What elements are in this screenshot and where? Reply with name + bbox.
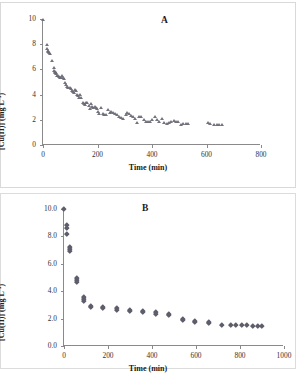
data-point bbox=[220, 123, 224, 126]
data-point bbox=[121, 117, 125, 120]
y-tick bbox=[61, 236, 64, 237]
y-tick-label: 6 bbox=[32, 66, 36, 73]
plot-area-b: 0.02.04.06.08.010.002004006008001000 bbox=[63, 209, 283, 346]
data-point bbox=[50, 59, 54, 62]
data-point bbox=[160, 117, 164, 120]
y-tick-label: 2.0 bbox=[48, 315, 57, 322]
x-tick-label: 600 bbox=[201, 151, 212, 158]
y-tick-label: 10.0 bbox=[44, 205, 57, 212]
x-tick bbox=[196, 346, 197, 349]
data-point bbox=[75, 280, 80, 285]
data-point bbox=[233, 323, 238, 328]
data-point bbox=[78, 93, 82, 96]
y-tick bbox=[40, 69, 43, 70]
data-point bbox=[135, 121, 139, 124]
data-point bbox=[41, 18, 45, 21]
x-axis-title-a: Time (min) bbox=[129, 163, 167, 172]
x-tick bbox=[207, 145, 208, 148]
data-point bbox=[100, 306, 105, 311]
y-tick-label: 2 bbox=[32, 116, 36, 123]
data-point bbox=[140, 310, 145, 315]
data-point bbox=[219, 322, 224, 327]
x-tick bbox=[64, 346, 65, 349]
y-tick bbox=[61, 264, 64, 265]
x-tick-label: 800 bbox=[255, 151, 266, 158]
x-tick-label: 0 bbox=[62, 352, 66, 359]
y-tick-label: 10 bbox=[29, 15, 36, 22]
x-tick bbox=[152, 145, 153, 148]
chart-panel-a: A 02468100200400600800 [Cu(II)] (mg L-1)… bbox=[0, 2, 296, 188]
x-tick-label: 600 bbox=[190, 352, 201, 359]
x-tick-label: 400 bbox=[146, 352, 157, 359]
y-tick-label: 0.0 bbox=[48, 342, 57, 349]
y-tick-label: 4 bbox=[32, 91, 36, 98]
y-tick-label: 4.0 bbox=[48, 287, 57, 294]
figure-container: A 02468100200400600800 [Cu(II)] (mg L-1)… bbox=[0, 0, 296, 389]
data-point bbox=[206, 321, 211, 326]
chart-panel-b: B 0.02.04.06.08.010.002004006008001000 [… bbox=[0, 193, 296, 369]
x-tick bbox=[152, 346, 153, 349]
y-tick-label: 6.0 bbox=[48, 260, 57, 267]
data-point bbox=[45, 43, 49, 46]
y-tick bbox=[61, 319, 64, 320]
data-point bbox=[62, 206, 67, 211]
data-point bbox=[88, 304, 93, 309]
data-point bbox=[180, 317, 185, 322]
y-tick-label: 0 bbox=[32, 141, 36, 148]
y-tick-label: 8 bbox=[32, 40, 36, 47]
data-point bbox=[244, 323, 249, 328]
x-tick bbox=[284, 346, 285, 349]
y-tick bbox=[40, 120, 43, 121]
x-tick bbox=[98, 145, 99, 148]
data-point bbox=[239, 323, 244, 328]
data-point bbox=[250, 323, 255, 328]
x-tick-label: 200 bbox=[92, 151, 103, 158]
y-tick bbox=[61, 291, 64, 292]
data-point bbox=[166, 312, 171, 317]
data-point bbox=[79, 96, 83, 99]
x-tick-label: 0 bbox=[41, 151, 45, 158]
data-point bbox=[114, 307, 119, 312]
data-point bbox=[157, 120, 161, 123]
x-axis-title-b: Time (min) bbox=[129, 364, 167, 373]
x-tick bbox=[43, 145, 44, 148]
plot-area-a: 02468100200400600800 bbox=[42, 19, 260, 145]
y-tick bbox=[40, 95, 43, 96]
data-point bbox=[186, 122, 190, 125]
x-tick-label: 200 bbox=[102, 352, 113, 359]
data-point bbox=[259, 323, 264, 328]
x-tick-label: 800 bbox=[234, 352, 245, 359]
data-point bbox=[228, 323, 233, 328]
y-tick bbox=[40, 44, 43, 45]
y-tick-label: 8.0 bbox=[48, 233, 57, 240]
x-tick-label: 400 bbox=[146, 151, 157, 158]
y-axis-title-b: [Cu(II)] (mg L-1) bbox=[0, 47, 6, 341]
x-tick-label: 1000 bbox=[277, 352, 292, 359]
x-tick bbox=[261, 145, 262, 148]
data-point bbox=[62, 77, 66, 80]
data-point bbox=[48, 52, 52, 55]
data-point bbox=[99, 106, 103, 109]
data-point bbox=[64, 225, 69, 230]
x-tick bbox=[108, 346, 109, 349]
x-tick bbox=[240, 346, 241, 349]
data-point bbox=[65, 231, 70, 236]
